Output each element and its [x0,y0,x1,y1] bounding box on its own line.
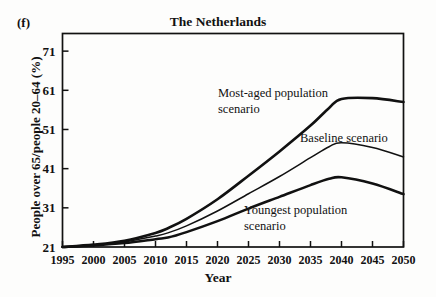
y-tick-group: 213141516171 [43,44,69,255]
annotation-youngest: scenario [244,219,286,233]
figure-panel: (f) The Netherlands People over 65/peopl… [0,0,436,297]
x-tick-label: 2015 [175,253,199,267]
x-tick-label: 2020 [206,253,230,267]
x-tick-label: 2030 [268,253,292,267]
y-tick-label: 71 [43,44,56,59]
annotation-group: Most-aged populationscenarioBaseline sce… [218,86,388,233]
x-tick-label: 2000 [82,253,106,267]
x-tick-label: 2005 [113,253,137,267]
x-tick-label: 2035 [299,253,323,267]
annotation-most-aged: scenario [218,102,260,116]
x-tick-label: 2045 [361,253,385,267]
x-tick-label: 2025 [237,253,261,267]
y-tick-label: 41 [43,161,56,176]
series-line [63,98,404,247]
y-tick-label: 51 [43,122,56,137]
x-tick-label: 1995 [51,253,75,267]
series-line [63,143,404,247]
x-tick-label: 2010 [144,253,168,267]
series-group [63,98,404,247]
annotation-most-aged: Most-aged population [218,86,329,100]
y-tick-label: 31 [43,200,56,215]
x-tick-label: 2040 [330,253,354,267]
annotation-baseline: Baseline scenario [300,131,388,145]
x-tick-label: 2050 [392,253,416,267]
y-tick-label: 61 [43,83,56,98]
annotation-youngest: Youngest population [244,203,348,217]
plot-area: 213141516171 199520002005201020152020202… [0,0,436,297]
